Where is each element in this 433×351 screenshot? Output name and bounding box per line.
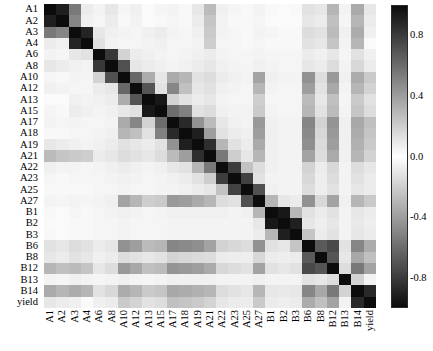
heatmap-cell <box>204 139 216 150</box>
heatmap-cell <box>290 72 302 83</box>
x-tick-A6: A6 <box>93 308 105 351</box>
heatmap-cell <box>105 117 117 128</box>
heatmap-cell <box>155 263 167 274</box>
heatmap-cell <box>290 263 302 274</box>
heatmap-cell <box>253 195 265 206</box>
heatmap-cell <box>364 162 376 173</box>
heatmap-cell <box>278 240 290 251</box>
heatmap-cell <box>105 38 117 49</box>
heatmap-cell <box>265 4 277 15</box>
heatmap-cell <box>69 83 81 94</box>
heatmap-cell <box>81 195 93 206</box>
heatmap-cell <box>44 117 56 128</box>
heatmap-cell <box>364 195 376 206</box>
heatmap-cell <box>253 117 265 128</box>
heatmap-cell <box>204 60 216 71</box>
heatmap-cell <box>118 207 130 218</box>
heatmap-cell <box>339 285 351 296</box>
heatmap-cell <box>81 162 93 173</box>
heatmap-cell <box>302 173 314 184</box>
heatmap-cell <box>253 4 265 15</box>
heatmap-cell <box>253 207 265 218</box>
x-tick-B6: B6 <box>302 308 314 351</box>
heatmap-cell <box>351 128 363 139</box>
y-tick-A25: A25 <box>0 184 41 195</box>
heatmap-cell <box>69 139 81 150</box>
heatmap-cell <box>204 83 216 94</box>
heatmap-cell <box>81 274 93 285</box>
heatmap-cell <box>253 240 265 251</box>
heatmap-cell <box>118 38 130 49</box>
heatmap-cell <box>44 139 56 150</box>
heatmap-cell <box>216 274 228 285</box>
y-tick-A4: A4 <box>0 38 41 49</box>
heatmap-cell <box>167 15 179 26</box>
heatmap-cell <box>81 184 93 195</box>
heatmap-cell <box>142 229 154 240</box>
y-axis-tick-labels: A1A2A3A4A6A8A10A12A13A15A17A18A19A21A22A… <box>0 4 41 308</box>
heatmap-cell <box>364 207 376 218</box>
heatmap-cell <box>278 128 290 139</box>
heatmap-cell <box>81 252 93 263</box>
heatmap-cell <box>142 150 154 161</box>
x-tick-label: A17 <box>168 310 179 328</box>
heatmap-cell <box>351 274 363 285</box>
heatmap-cell <box>216 184 228 195</box>
heatmap-cell <box>302 139 314 150</box>
heatmap-cell <box>228 38 240 49</box>
x-tick-label: A25 <box>242 310 253 328</box>
heatmap-cell <box>315 105 327 116</box>
heatmap-cell <box>216 60 228 71</box>
heatmap-cell <box>241 38 253 49</box>
x-tick-label: B8 <box>315 310 326 322</box>
heatmap-cell <box>364 229 376 240</box>
heatmap-cell <box>327 263 339 274</box>
heatmap-cell <box>228 240 240 251</box>
heatmap-cell <box>118 15 130 26</box>
heatmap-cell <box>167 49 179 60</box>
heatmap-cell <box>142 60 154 71</box>
heatmap-cell <box>216 229 228 240</box>
heatmap-cell <box>192 229 204 240</box>
heatmap-cell <box>290 195 302 206</box>
heatmap-cell <box>253 229 265 240</box>
colorbar-tick-labels: 0.80.40.0-0.4-0.8 <box>410 0 433 351</box>
heatmap-cell <box>228 60 240 71</box>
heatmap-cell <box>204 274 216 285</box>
heatmap-cell <box>142 297 154 308</box>
y-tick-B1: B1 <box>0 207 41 218</box>
heatmap-cell <box>228 274 240 285</box>
y-tick-A17: A17 <box>0 117 41 128</box>
heatmap-cell <box>167 195 179 206</box>
heatmap-cell <box>179 285 191 296</box>
heatmap-cell <box>228 195 240 206</box>
heatmap-cell <box>155 195 167 206</box>
heatmap-cell <box>327 128 339 139</box>
heatmap-cell <box>216 128 228 139</box>
heatmap-cell <box>69 60 81 71</box>
heatmap-cell <box>339 72 351 83</box>
heatmap-cell <box>241 252 253 263</box>
heatmap-cell <box>315 94 327 105</box>
heatmap-cell <box>167 139 179 150</box>
heatmap-cell <box>351 117 363 128</box>
heatmap-cell <box>179 27 191 38</box>
heatmap-cell <box>155 4 167 15</box>
heatmap-cell <box>118 252 130 263</box>
heatmap-cell <box>56 4 68 15</box>
heatmap-cell <box>364 38 376 49</box>
heatmap-cell <box>265 15 277 26</box>
heatmap-cell <box>302 150 314 161</box>
heatmap-cell <box>69 38 81 49</box>
heatmap-cell <box>192 60 204 71</box>
heatmap-cell <box>69 117 81 128</box>
heatmap-cell <box>327 72 339 83</box>
heatmap-cell <box>192 240 204 251</box>
heatmap-cell <box>302 218 314 229</box>
x-tick-label: A22 <box>217 310 228 328</box>
heatmap-cell <box>290 207 302 218</box>
heatmap-cell <box>351 72 363 83</box>
heatmap-cell <box>204 72 216 83</box>
heatmap-cell <box>241 240 253 251</box>
heatmap-cell <box>93 162 105 173</box>
